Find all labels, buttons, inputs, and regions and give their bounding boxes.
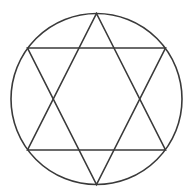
circumscribed-circle [11,14,182,185]
hexagram-diagram [0,0,188,196]
downward-triangle [28,48,166,185]
upward-triangle [28,14,166,151]
